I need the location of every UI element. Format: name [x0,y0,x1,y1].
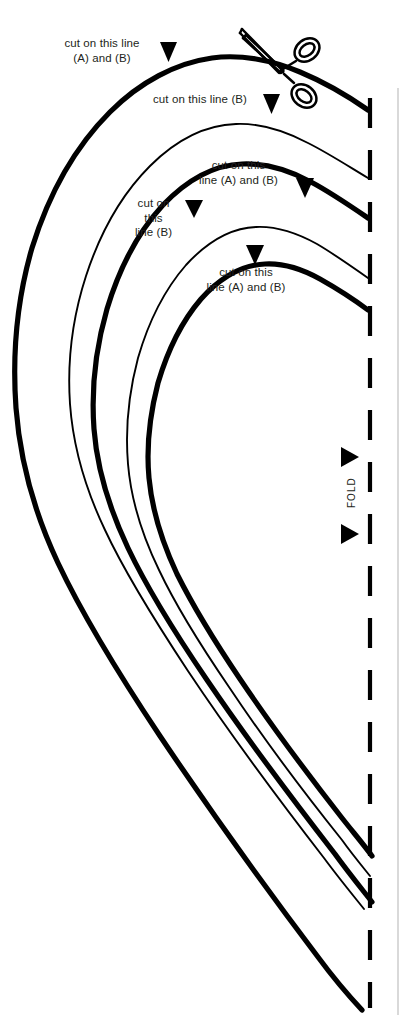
cut-line-2-label: cut on this line (B) [139,92,261,107]
triangle-down-icon [160,42,177,62]
cut-line-3-label: cut on this line (A) and (B) [185,158,292,187]
fold-label: FOLD [346,477,357,508]
cut-line-4-label: cut on this line (B) [126,196,181,240]
cut-line-1-outer [15,57,368,1010]
cut-line-5-label: cut on this line (A) and (B) [192,265,300,294]
cut-line-4 [127,227,370,876]
pattern-artwork [0,0,405,1015]
triangle-up-icon [185,200,203,218]
triangle-down-icon [263,94,280,114]
triangle-up-icon [296,178,314,198]
cut-line-1-label: cut on this line (A) and (B) [44,36,160,65]
pattern-sheet: cut on this line (A) and (B) cut on this… [0,0,405,1015]
triangle-right-icon [341,447,359,467]
triangle-right-icon [341,524,359,544]
